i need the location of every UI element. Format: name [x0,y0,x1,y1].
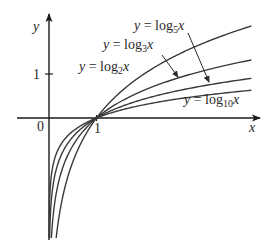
label-mid: = log [140,18,173,33]
y-tick-label-1: 1 [33,67,40,82]
label-mid: = log [109,37,142,52]
x-tick-label-1: 1 [94,121,101,136]
label-log5: y = log5x [132,18,185,35]
label-x: x [122,59,130,74]
label-mid: = log [85,59,118,74]
curve-log3 [51,60,251,238]
label-x: x [146,37,154,52]
label-sub: 10 [223,98,233,109]
origin-label: 0 [37,119,44,134]
annotation-arrows [162,33,209,82]
label-x: x [232,92,240,107]
label-x: x [177,18,185,33]
curve-log10 [49,90,251,238]
label-log10: y = log10x [182,92,240,109]
label-mid: = log [190,92,223,107]
curve-log2 [56,26,251,238]
plot-area: y x 0 1 1 y = log2x y = log3x y = log5x … [0,0,273,247]
y-axis-label: y [31,19,40,34]
curves [49,26,251,238]
log-functions-chart: y x 0 1 1 y = log2x y = log3x y = log5x … [0,0,273,247]
x-axis-label: x [248,120,256,135]
label-log2: y = log2x [77,59,130,76]
label-log3: y = log3x [101,37,154,54]
